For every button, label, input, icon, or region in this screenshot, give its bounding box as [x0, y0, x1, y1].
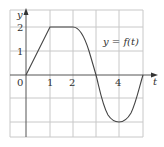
equation-annotation: y = f(t) [102, 36, 139, 47]
origin-label: 0 [17, 77, 23, 88]
axes [10, 12, 154, 137]
x-tick-4: 4 [115, 77, 121, 88]
x-tick-1: 1 [47, 77, 53, 88]
function-graph: y t 0 1 2 4 1 2 y = f(t) [0, 0, 164, 147]
y-tick-1: 1 [17, 46, 23, 57]
y-tick-2: 2 [17, 22, 23, 33]
y-axis-arrow-icon [24, 8, 29, 15]
y-axis-label: y [16, 9, 23, 20]
grid [10, 10, 143, 137]
x-tick-2: 2 [69, 77, 75, 88]
x-axis-label: t [153, 76, 158, 87]
